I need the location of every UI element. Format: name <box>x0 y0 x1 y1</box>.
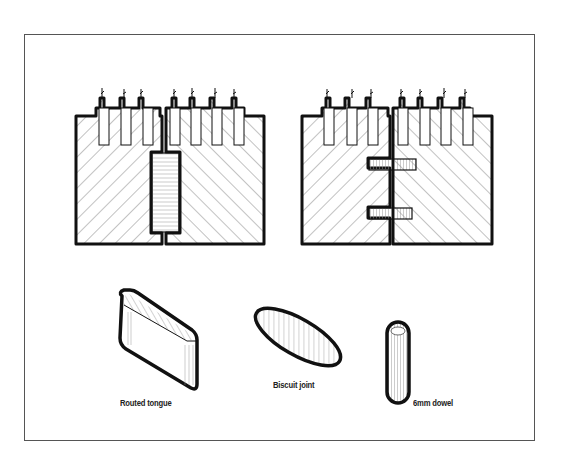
label-routed-tongue: Routed tongue <box>120 398 172 408</box>
biscuit-illustration <box>247 297 348 376</box>
dowel-illustration <box>387 322 409 403</box>
left-board <box>76 88 162 244</box>
label-dowel: 6mm dowel <box>413 398 453 408</box>
label-biscuit-joint: Biscuit joint <box>273 380 314 390</box>
right-board <box>166 88 264 244</box>
routed-tongue-illustration <box>120 290 197 389</box>
dowel-joint <box>302 88 492 244</box>
routed-tongue-joint <box>76 88 264 244</box>
dowel-piece-top <box>369 159 416 170</box>
tongue-piece <box>152 153 179 232</box>
dowel-piece-bottom <box>369 208 412 219</box>
